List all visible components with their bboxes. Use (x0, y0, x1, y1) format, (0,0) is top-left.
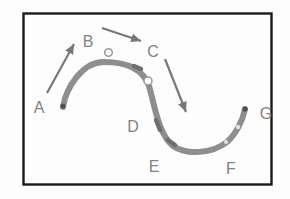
endpoint-dot-g (242, 106, 247, 111)
s-curve-path (63, 62, 245, 152)
diagram-svg: A B C D E F G (0, 0, 290, 199)
curve-light-speck (224, 140, 228, 144)
curve-dark-speck (134, 66, 141, 69)
curve-light-speck (236, 125, 240, 129)
label-e: E (149, 158, 160, 175)
marker-circle-c (144, 77, 152, 85)
label-b: B (83, 33, 94, 50)
marker-circle-b (105, 49, 113, 57)
direction-arrow-b-to-c (102, 28, 141, 41)
endpoint-dot-a (60, 103, 65, 108)
label-g: G (260, 105, 272, 122)
label-c: C (147, 43, 159, 60)
label-f: F (226, 160, 236, 177)
direction-arrow-c-down (165, 59, 186, 112)
label-a: A (34, 99, 45, 116)
figure-frame (24, 14, 272, 185)
figure-canvas: A B C D E F G (0, 0, 290, 199)
label-d: D (127, 118, 139, 135)
